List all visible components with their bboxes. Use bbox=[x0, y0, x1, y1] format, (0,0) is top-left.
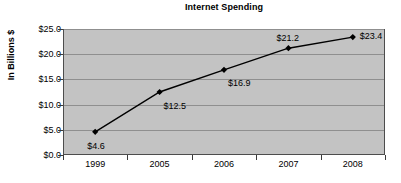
data-point-label: $16.9 bbox=[228, 79, 251, 88]
x-axis-tick-label: 2006 bbox=[194, 160, 254, 169]
x-axis-tick-label: 2005 bbox=[130, 160, 190, 169]
gridline bbox=[64, 130, 384, 131]
x-axis-tick-label: 2007 bbox=[258, 160, 318, 169]
gridline bbox=[64, 54, 384, 55]
data-point-label: $12.5 bbox=[164, 102, 187, 111]
data-point-label: $23.4 bbox=[360, 32, 383, 41]
x-axis-tick-mark bbox=[385, 155, 386, 160]
x-axis-tick-mark bbox=[127, 155, 128, 160]
y-axis-tick-label: $20.0 bbox=[15, 50, 61, 59]
x-axis-tick-label: 1999 bbox=[65, 160, 125, 169]
y-axis-tick-label: $0.0 bbox=[15, 151, 61, 160]
y-axis-tick-mark bbox=[58, 130, 63, 131]
y-axis-tick-mark bbox=[58, 29, 63, 30]
y-axis-tick-label: $25.0 bbox=[15, 25, 61, 34]
y-axis-tick-mark bbox=[58, 54, 63, 55]
data-point-label: $4.6 bbox=[87, 142, 105, 151]
gridline bbox=[64, 29, 384, 30]
gridline bbox=[64, 79, 384, 80]
data-point-label: $21.2 bbox=[276, 34, 299, 43]
gridline bbox=[64, 105, 384, 106]
chart-container: Internet Spending In Billions $ $0.0$5.0… bbox=[0, 0, 401, 183]
y-axis-tick-mark bbox=[58, 79, 63, 80]
y-axis-tick-label: $5.0 bbox=[15, 126, 61, 135]
y-axis-tick-mark bbox=[58, 105, 63, 106]
chart-title: Internet Spending bbox=[63, 2, 385, 12]
y-axis-tick-label: $10.0 bbox=[15, 101, 61, 110]
y-axis-tick-label: $15.0 bbox=[15, 75, 61, 84]
x-axis-tick-mark bbox=[192, 155, 193, 160]
x-axis-tick-mark bbox=[256, 155, 257, 160]
x-axis-tick-mark bbox=[321, 155, 322, 160]
x-axis-tick-label: 2008 bbox=[323, 160, 383, 169]
plot-area bbox=[63, 29, 385, 155]
x-axis-tick-mark bbox=[63, 155, 64, 160]
